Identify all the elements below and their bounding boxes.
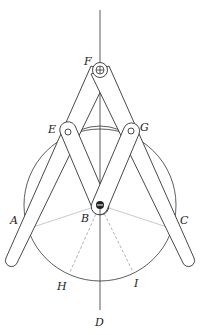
label-a: A — [9, 214, 18, 227]
trisector-diagram: F E G A B C H I D — [0, 0, 201, 335]
label-b: B — [80, 212, 89, 225]
label-g: G — [140, 121, 149, 134]
label-d: D — [94, 316, 104, 329]
label-i: I — [133, 277, 139, 290]
pivot-f — [93, 63, 108, 78]
bar-gb — [91, 123, 139, 215]
label-h: H — [56, 280, 67, 293]
label-e: E — [47, 123, 56, 136]
label-c: C — [180, 214, 189, 227]
pivot-b — [96, 201, 104, 209]
bar-right — [91, 66, 195, 267]
radius-bi — [100, 205, 133, 272]
pivot-e — [65, 129, 71, 135]
label-f: F — [83, 55, 92, 68]
pivot-g — [128, 128, 134, 134]
bar-left — [5, 66, 109, 267]
